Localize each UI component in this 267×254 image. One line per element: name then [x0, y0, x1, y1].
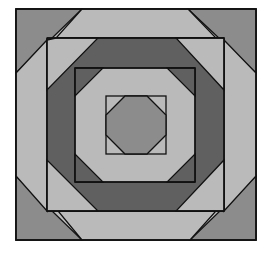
band-top-light — [56, 9, 216, 38]
quilt-block — [0, 0, 267, 254]
quilt-diagram — [0, 0, 267, 254]
band-bottom-light — [58, 211, 216, 240]
